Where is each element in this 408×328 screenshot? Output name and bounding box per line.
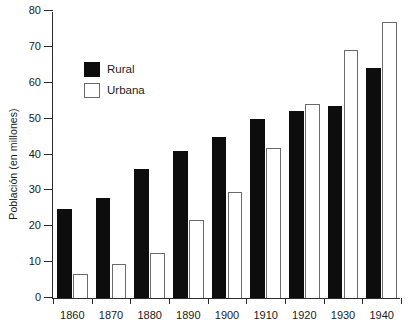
bar-rural-1910 (250, 119, 265, 298)
x-tick-label-1890: 1890 (176, 309, 200, 322)
x-tick-label-1930: 1930 (331, 309, 355, 322)
x-tick-label-1870: 1870 (99, 309, 123, 322)
population-bar-chart: Población (en millones) 0102030405060708… (0, 0, 408, 328)
y-tick-label: 50 (29, 112, 41, 125)
y-axis-title-text: Población (en millones) (7, 108, 41, 219)
x-tick (92, 298, 93, 304)
bar-urbana-1890 (189, 220, 204, 298)
y-tick-0: 0 (44, 297, 53, 298)
x-tick (401, 298, 402, 304)
plot-area: 01020304050607080 1860187018801890190019… (52, 12, 400, 299)
legend-label-urbana: Urbana (107, 84, 145, 97)
legend-label-rural: Rural (107, 63, 134, 76)
y-tick-30: 30 (44, 189, 53, 190)
bar-rural-1890 (173, 151, 188, 298)
bar-rural-1940 (366, 68, 381, 298)
x-tick-label-1920: 1920 (292, 309, 316, 322)
legend-swatch-rural-icon (84, 62, 100, 77)
bar-rural-1870 (96, 198, 111, 298)
y-tick-80: 80 (44, 10, 53, 11)
bar-urbana-1930 (344, 50, 359, 298)
bar-urbana-1920 (305, 104, 320, 298)
legend-swatch-urbana-icon (84, 83, 100, 98)
y-tick-10: 10 (44, 261, 53, 262)
x-tick-label-1860: 1860 (60, 309, 84, 322)
legend-item-rural: Rural (84, 60, 145, 79)
x-tick (130, 298, 131, 304)
y-tick-20: 20 (44, 225, 53, 226)
bar-urbana-1870 (112, 264, 127, 298)
x-tick (246, 298, 247, 304)
bar-rural-1860 (57, 209, 72, 298)
x-tick (285, 298, 286, 304)
bar-urbana-1900 (228, 192, 243, 298)
y-tick-label: 20 (29, 219, 41, 232)
bar-rural-1900 (212, 137, 227, 298)
y-tick-label: 60 (29, 76, 41, 89)
y-tick-60: 60 (44, 82, 53, 83)
y-tick-label: 0 (35, 291, 41, 304)
bar-urbana-1880 (150, 253, 165, 298)
bar-urbana-1910 (266, 148, 281, 298)
bar-urbana-1940 (382, 22, 397, 298)
legend-item-urbana: Urbana (84, 81, 145, 100)
x-tick-label-1900: 1900 (215, 309, 239, 322)
x-tick (324, 298, 325, 304)
y-tick-70: 70 (44, 46, 53, 47)
y-tick-label: 30 (29, 183, 41, 196)
bar-rural-1880 (134, 169, 149, 298)
x-tick (169, 298, 170, 304)
bar-urbana-1860 (73, 274, 88, 298)
x-tick-label-1880: 1880 (137, 309, 161, 322)
x-tick (53, 298, 54, 304)
bar-rural-1920 (289, 111, 304, 298)
chart-legend: Rural Urbana (84, 60, 145, 102)
x-tick-label-1910: 1910 (253, 309, 277, 322)
y-tick-label: 10 (29, 255, 41, 268)
x-tick (362, 298, 363, 304)
y-tick-label: 80 (29, 4, 41, 17)
bar-rural-1930 (328, 106, 343, 298)
y-tick-label: 40 (29, 148, 41, 161)
y-tick-40: 40 (44, 154, 53, 155)
y-tick-50: 50 (44, 118, 53, 119)
x-tick (208, 298, 209, 304)
y-tick-label: 70 (29, 40, 41, 53)
x-tick-label-1940: 1940 (369, 309, 393, 322)
